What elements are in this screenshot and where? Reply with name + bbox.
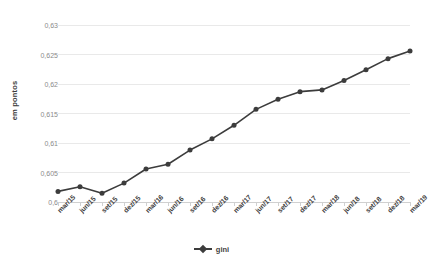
x-tick-label: set/18	[364, 195, 383, 214]
x-tick-label: dez/16	[210, 194, 230, 214]
x-tick-label: jun/16	[166, 195, 185, 214]
x-tick-label: jun/18	[342, 195, 361, 214]
x-tick-label: mar/15	[56, 193, 76, 213]
chart-legend: gini	[0, 244, 423, 254]
x-tick-label: mar/18	[320, 193, 340, 213]
x-tick-label: mar/19	[408, 193, 428, 213]
x-tick-label: dez/17	[298, 194, 318, 214]
x-tick-label: jun/17	[254, 195, 273, 214]
legend-label-gini: gini	[216, 245, 229, 254]
x-tick-label: dez/18	[386, 194, 406, 214]
legend-marker-gini	[194, 248, 212, 250]
x-tick-label: set/17	[276, 195, 295, 214]
x-tick-label: set/16	[188, 195, 207, 214]
x-tick-label: dez/15	[122, 194, 142, 214]
x-tick-label: jun/15	[78, 195, 97, 214]
x-tick-label: mar/16	[144, 193, 164, 213]
x-tick-label: mar/17	[232, 193, 252, 213]
x-tick-label: set/15	[100, 195, 119, 214]
